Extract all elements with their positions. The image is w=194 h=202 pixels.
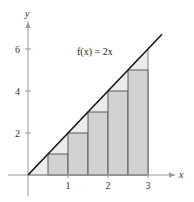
y-tick-label: 6 xyxy=(15,44,20,55)
x-axis-label: x xyxy=(178,169,184,180)
riemann-rectangle xyxy=(108,91,128,175)
riemann-sum-chart: 123246 f(x) = 2x x y xyxy=(0,0,194,202)
riemann-rectangle xyxy=(88,112,108,175)
y-tick-label: 4 xyxy=(15,86,20,97)
y-axis-arrow-icon xyxy=(26,21,31,28)
y-tick-label: 2 xyxy=(15,128,20,139)
riemann-rectangle xyxy=(48,154,68,175)
y-axis-label: y xyxy=(24,8,30,19)
rectangles xyxy=(48,70,148,175)
x-tick-label: 1 xyxy=(66,180,71,191)
riemann-rectangle xyxy=(68,133,88,175)
riemann-rectangle xyxy=(128,70,148,175)
x-tick-label: 2 xyxy=(106,180,111,191)
x-axis-arrow-icon xyxy=(169,173,176,178)
function-label: f(x) = 2x xyxy=(77,46,113,58)
x-tick-label: 3 xyxy=(146,180,151,191)
